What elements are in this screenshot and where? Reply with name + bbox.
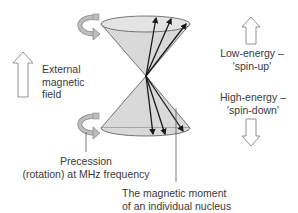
magnetic-moment-line-1: The magnetic moment (122, 187, 231, 200)
precession-line-2: (rotation) at MHz frequency (18, 168, 154, 181)
external-field-line-3: field (42, 88, 85, 101)
external-field-line-2: magnetic (42, 76, 85, 89)
spin-up-arrow-icon (242, 17, 260, 44)
external-field-label: External magnetic field (42, 63, 85, 101)
external-field-up-arrow-icon (13, 52, 33, 97)
low-energy-line-1: Low-energy – (214, 47, 290, 60)
lower-cone (101, 76, 190, 136)
high-energy-line-2: 'spin-down' (214, 104, 292, 117)
magnetic-moment-label: The magnetic moment of an individual nuc… (122, 187, 231, 212)
high-energy-label: High-energy – 'spin-down' (214, 91, 292, 116)
rotation-arrow-upper-icon (80, 14, 100, 40)
spin-down-arrow-icon (242, 119, 260, 146)
upper-cone (101, 16, 190, 76)
high-energy-line-1: High-energy – (214, 91, 292, 104)
external-field-line-1: External (42, 63, 85, 76)
precession-label: Precession (rotation) at MHz frequency (18, 155, 154, 180)
precession-line-1: Precession (18, 155, 154, 168)
magnetic-moment-line-2: of an individual nucleus (122, 200, 231, 213)
rotation-arrow-lower-icon (80, 113, 100, 139)
low-energy-line-2: 'spin-up' (214, 60, 290, 73)
low-energy-label: Low-energy – 'spin-up' (214, 47, 290, 72)
